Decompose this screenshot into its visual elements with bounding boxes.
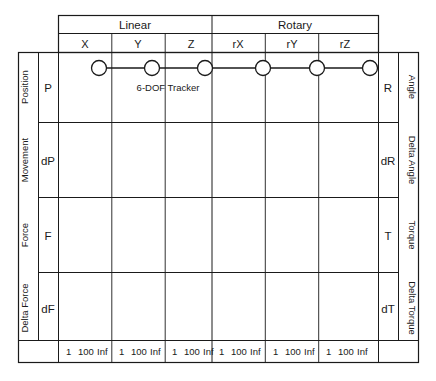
device-node-x — [92, 61, 107, 76]
footer-tick-ry-100: 100 — [285, 346, 301, 357]
footer-tick-rx-inf: Inf — [250, 346, 261, 357]
header-block: Linear Rotary X Y Z rX rY rZ — [59, 16, 379, 53]
footer-tick-y-100: 100 — [131, 346, 147, 357]
footer-tick-z-1: 1 — [172, 346, 177, 357]
diagram-canvas: Linear Rotary X Y Z rX rY rZ — [0, 0, 436, 381]
matrix-row-force: Force F T Torque — [19, 220, 418, 249]
row-right-symbol-r: R — [384, 82, 392, 94]
row-left-category-force: Force — [19, 223, 30, 247]
row-right-category-delta-angle: Delta Angle — [407, 136, 418, 185]
column-header-rz: rZ — [340, 38, 351, 50]
matrix-outline — [19, 53, 419, 363]
dof-matrix-diagram: Linear Rotary X Y Z rX rY rZ — [0, 0, 436, 381]
footer-tick-x-inf: Inf — [97, 346, 108, 357]
device-node-rz — [363, 61, 378, 76]
row-left-symbol-dp: dP — [41, 155, 55, 167]
footer-tick-rx-100: 100 — [231, 346, 247, 357]
row-left-category-movement: Movement — [19, 137, 30, 182]
footer-tick-y-inf: Inf — [150, 346, 161, 357]
row-right-category-delta-torque: Delta Torque — [407, 281, 418, 335]
column-header-x: X — [81, 38, 89, 50]
column-header-rx: rX — [233, 38, 245, 50]
column-header-y: Y — [134, 38, 142, 50]
footer-tick-z-inf: Inf — [203, 346, 214, 357]
row-right-category-torque: Torque — [407, 220, 418, 249]
device-chain-6dof-tracker: 6-DOF Tracker — [92, 61, 378, 94]
row-left-category-delta-force: Delta Force — [19, 283, 30, 332]
footer-tick-rz-100: 100 — [338, 346, 354, 357]
footer-tick-ry-inf: Inf — [304, 346, 315, 357]
row-right-symbol-dr: dR — [381, 155, 396, 167]
footer-tick-x-1: 1 — [66, 346, 71, 357]
footer-scale-row: 1 100 Inf 1 100 Inf 1 100 Inf 1 100 Inf … — [66, 346, 368, 357]
column-header-z: Z — [188, 38, 195, 50]
row-right-symbol-t: T — [384, 230, 391, 242]
column-header-ry: rY — [287, 38, 299, 50]
device-node-z — [198, 61, 213, 76]
footer-tick-rz-1: 1 — [326, 346, 331, 357]
footer-tick-rz-inf: Inf — [357, 346, 368, 357]
device-chain-label: 6-DOF Tracker — [137, 82, 200, 93]
footer-tick-x-100: 100 — [78, 346, 94, 357]
row-left-category-position: Position — [19, 70, 30, 104]
device-node-ry — [310, 61, 325, 76]
row-left-symbol-p: P — [44, 82, 52, 94]
device-node-y — [145, 61, 160, 76]
footer-tick-ry-1: 1 — [273, 346, 278, 357]
row-right-symbol-dt: dT — [381, 303, 394, 315]
matrix-row-delta-force: Delta Force dF dT Delta Torque — [19, 281, 418, 335]
matrix-row-movement: Movement dP dR Delta Angle — [19, 136, 418, 185]
row-left-symbol-df: dF — [41, 303, 54, 315]
row-right-category-angle: Angle — [407, 75, 418, 99]
row-left-symbol-f: F — [44, 230, 51, 242]
column-group-label-rotary: Rotary — [278, 19, 312, 31]
device-node-rx — [256, 61, 271, 76]
column-group-label-linear: Linear — [119, 19, 151, 31]
footer-tick-rx-1: 1 — [219, 346, 224, 357]
footer-tick-z-100: 100 — [184, 346, 200, 357]
matrix-row-position: Position P R Angle — [19, 70, 418, 104]
matrix-body — [19, 53, 419, 363]
footer-tick-y-1: 1 — [119, 346, 124, 357]
